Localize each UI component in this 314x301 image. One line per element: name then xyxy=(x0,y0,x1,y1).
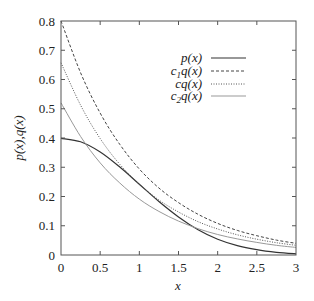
series-line-p(x) xyxy=(61,138,296,254)
plot-frame xyxy=(61,21,296,255)
y-tick-label: 0.1 xyxy=(39,218,55,233)
y-tick-label: 0.3 xyxy=(39,160,55,175)
legend: p(x)c1q(x)cq(x)c2q(x) xyxy=(171,50,246,105)
x-tick-label: 1 xyxy=(136,260,143,275)
plot-curves xyxy=(61,21,296,254)
x-tick-label: 0.5 xyxy=(92,260,108,275)
y-tick-label: 0.6 xyxy=(39,72,56,87)
y-tick-label: 0.2 xyxy=(39,189,55,204)
y-tick-label: 0.7 xyxy=(39,43,56,58)
series-line-c2q(x) xyxy=(61,103,296,248)
x-tick-label: 2 xyxy=(214,260,221,275)
y-tick-label: 0.8 xyxy=(39,14,55,29)
x-tick-label: 0 xyxy=(58,260,65,275)
x-axis-label: x xyxy=(174,278,181,293)
axis-tick-labels: 00.511.522.5300.10.20.30.40.50.60.70.8 xyxy=(39,14,300,276)
y-tick-label: 0 xyxy=(49,248,56,263)
legend-label: c2q(x) xyxy=(171,88,202,105)
x-tick-label: 3 xyxy=(293,260,300,275)
y-axis-label: p(x),q(x) xyxy=(11,115,26,161)
y-tick-label: 0.4 xyxy=(39,131,56,146)
axis-ticks xyxy=(61,21,296,255)
chart: 00.511.522.5300.10.20.30.40.50.60.70.8 x… xyxy=(0,0,314,301)
x-tick-label: 2.5 xyxy=(249,260,265,275)
y-tick-label: 0.5 xyxy=(39,101,55,116)
x-tick-label: 1.5 xyxy=(170,260,186,275)
